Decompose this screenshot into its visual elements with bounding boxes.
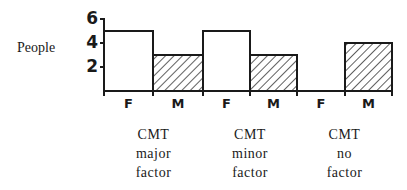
bar-m-2 xyxy=(250,55,297,91)
x-tick-label: F xyxy=(114,96,144,111)
category-label-2: CMTminorfactor xyxy=(210,125,290,182)
bar-f-1 xyxy=(104,31,153,91)
bar-m-3 xyxy=(345,43,392,91)
x-tick-label: F xyxy=(306,96,336,111)
bar-f-2 xyxy=(203,31,250,91)
x-tick-label: M xyxy=(259,96,289,111)
category-label-1: CMTmajorfactor xyxy=(114,125,194,182)
category-label-3: CMTnofactor xyxy=(305,125,385,182)
x-tick-label: M xyxy=(354,96,384,111)
x-tick-label: M xyxy=(163,96,193,111)
x-tick-label: F xyxy=(212,96,242,111)
bar-m-1 xyxy=(153,55,203,91)
